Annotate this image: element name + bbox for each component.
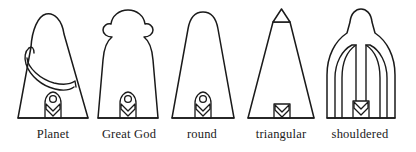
planet-niche [45,92,61,118]
stele-shape-planet [18,14,88,118]
round-niche [195,92,211,118]
great-god-niche [120,92,136,118]
triangular-niche [274,104,290,118]
stele-shape-round [172,12,234,118]
triangular-apex-cap [273,9,290,22]
stele-typology-figure: Planet Great God round triangular should… [0,0,416,152]
stele-shape-triangular [248,9,314,118]
great-god-niche-boss [125,96,132,103]
stele-shape-great-god [98,10,158,118]
stele-shape-shouldered [327,9,395,118]
caption-round: round [162,128,242,141]
shouldered-niche [353,101,369,118]
planet-niche-boss [50,96,57,103]
caption-shouldered: shouldered [306,128,414,141]
round-niche-boss [200,96,207,103]
